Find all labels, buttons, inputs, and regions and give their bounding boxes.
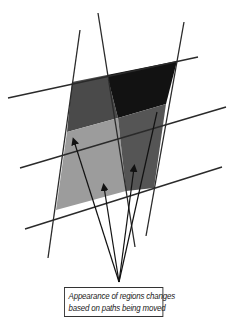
caption-box: Appearance of regions changes based on p…	[64, 287, 163, 317]
caption-line-2: based on paths being moved	[69, 302, 160, 314]
region-paths-diagram	[0, 0, 237, 327]
caption-line-1: Appearance of regions changes	[69, 290, 160, 302]
